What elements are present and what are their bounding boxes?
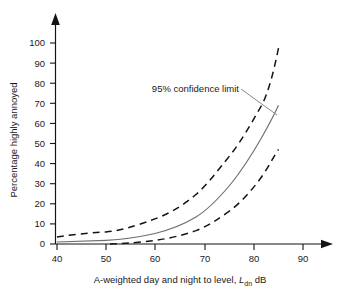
x-axis-title: A-weighted day and night to level, Ldn d… [94,274,267,287]
y-tick-label: 50 [34,138,45,149]
y-tick-label: 10 [34,218,45,229]
x-tick-label: 60 [150,253,161,264]
y-tick-label: 80 [34,78,45,89]
y-tick-label: 20 [34,198,45,209]
chart-figure: 40 50 60 70 80 90 0 10 20 30 40 [0,0,342,295]
x-axis-arrow-icon [321,240,333,249]
y-tick-label: 0 [40,238,45,249]
y-tick-labels-group: 0 10 20 30 40 50 60 70 80 90 100 [29,37,45,249]
y-axis-title: Percentage highly annoyed [8,82,19,197]
y-tick-label: 40 [34,158,45,169]
y-tick-label: 60 [34,118,45,129]
x-tick-label: 40 [52,253,63,264]
x-axis-title-after: dB [252,274,266,285]
y-ticks-group [50,43,56,244]
y-tick-label: 30 [34,178,45,189]
y-tick-label: 100 [29,37,45,48]
y-tick-label: 70 [34,98,45,109]
confidence-limit-annotation-label: 95% confidence limit [152,83,239,94]
x-tick-label: 90 [298,253,309,264]
x-tick-label: 70 [200,253,211,264]
x-tick-labels-group: 40 50 60 70 80 90 [52,253,309,264]
x-ticks-group [57,244,303,250]
axes-group [51,13,333,248]
x-axis-title-before: A-weighted day and night to level, [94,274,239,285]
series-upper-confidence-limit [57,48,279,237]
curves-group [57,48,279,244]
x-axis-title-subscript: dn [244,280,252,287]
y-axis-arrow-icon [51,13,60,25]
series-mean-dose-response [57,105,279,242]
dose-response-chart: 40 50 60 70 80 90 0 10 20 30 40 [0,0,342,295]
y-tick-label: 90 [34,58,45,69]
x-tick-label: 50 [101,253,112,264]
x-tick-label: 80 [249,253,260,264]
